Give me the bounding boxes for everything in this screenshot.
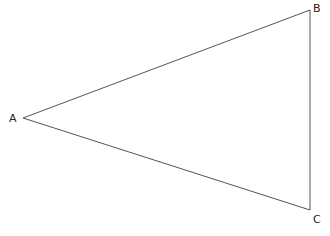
vertex-label-a: A bbox=[9, 113, 17, 124]
vertex-label-b: B bbox=[313, 3, 321, 14]
triangle-abc bbox=[23, 10, 310, 210]
vertex-label-c: C bbox=[313, 214, 321, 225]
triangle-diagram bbox=[0, 0, 330, 236]
